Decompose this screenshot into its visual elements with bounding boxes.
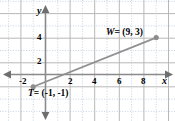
coordinate-plane-svg [0,0,175,121]
point-label-W: W= (9, 3) [106,27,143,37]
x-tick-label-8: 8 [141,76,146,86]
x-axis-label: x [162,75,167,86]
major-gridlines [0,0,175,121]
y-tick-label-4: 4 [37,32,42,42]
x-axis-arrow-left [3,71,11,79]
x-tick-label--2: -2 [19,76,27,86]
y-tick-label-2: 2 [37,56,42,66]
x-tick-label-4: 4 [92,76,97,86]
y-axis-arrow-up [42,5,50,13]
y-axis-label: y [37,5,41,16]
minor-gridlines [0,0,175,121]
y-axis-arrow-down [42,112,50,120]
point-label-T: T= (-1, -1) [28,88,69,98]
x-tick-label-6: 6 [117,76,122,86]
point-label-T-coords: = (-1, -1) [34,88,69,98]
graph-figure: -2 2 4 6 8 2 4 y x W= (9, 3) T= (-1, -1) [0,0,175,121]
point-W [154,35,159,40]
x-tick-label-2: 2 [68,76,73,86]
point-label-W-coords: = (9, 3) [114,27,142,37]
